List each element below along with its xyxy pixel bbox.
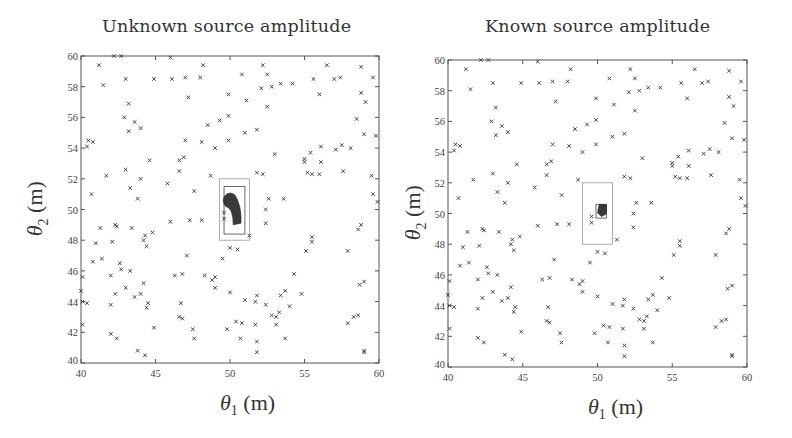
sensor-marker-x bbox=[346, 249, 350, 253]
sensor-marker-x bbox=[254, 323, 258, 327]
sensor-marker-x bbox=[611, 302, 615, 306]
sensor-marker-x bbox=[145, 245, 149, 249]
sensor-marker-x bbox=[678, 239, 682, 243]
sensor-marker-x bbox=[115, 337, 119, 341]
y-axis-unit: (m) bbox=[400, 185, 425, 217]
sensor-marker-x bbox=[362, 132, 366, 136]
sensor-marker-x bbox=[642, 327, 646, 331]
sensor-marker-x bbox=[200, 140, 204, 144]
sensor-marker-x bbox=[485, 265, 489, 269]
sensor-marker-x bbox=[512, 249, 516, 253]
y-tick-label: 46 bbox=[68, 266, 79, 277]
sensor-marker-x bbox=[482, 341, 486, 345]
sensor-marker-x bbox=[374, 134, 378, 138]
y-tick-label: 52 bbox=[435, 178, 446, 189]
sensor-marker-x bbox=[255, 128, 259, 132]
x-tick-label: 55 bbox=[299, 368, 310, 379]
sensor-marker-x bbox=[91, 260, 95, 264]
sensor-marker-x bbox=[633, 77, 637, 81]
sensor-marker-x bbox=[273, 152, 277, 156]
sensor-marker-x bbox=[234, 320, 238, 324]
sensor-marker-x bbox=[638, 318, 642, 322]
y-tick-label: 54 bbox=[435, 147, 446, 158]
sensor-marker-x bbox=[512, 310, 516, 314]
sensor-marker-x bbox=[283, 337, 287, 341]
sensor-marker-x bbox=[500, 299, 504, 303]
y-axis-label: θ2 (m) bbox=[22, 174, 51, 244]
sensor-marker-x bbox=[239, 337, 243, 341]
y-tick-label: 56 bbox=[435, 116, 446, 127]
sensor-marker-x bbox=[518, 235, 522, 239]
sensor-marker-x bbox=[593, 331, 597, 335]
sensor-marker-x bbox=[594, 118, 598, 122]
sensor-marker-x bbox=[267, 197, 271, 201]
prior-box-outer bbox=[583, 183, 613, 244]
sensor-marker-x bbox=[209, 174, 213, 178]
sensor-marker-x bbox=[623, 344, 627, 348]
sensor-marker-x bbox=[533, 186, 537, 190]
sensor-marker-x bbox=[651, 341, 655, 345]
x-tick-label: 60 bbox=[742, 372, 753, 383]
sensor-marker-x bbox=[567, 222, 571, 226]
sensor-marker-x bbox=[115, 225, 119, 229]
sensor-marker-x bbox=[228, 246, 232, 250]
sensor-marker-x bbox=[700, 81, 704, 85]
sensor-marker-x bbox=[113, 292, 117, 296]
sensor-marker-x bbox=[169, 220, 173, 224]
sensor-marker-x bbox=[590, 221, 594, 225]
sensor-marker-x bbox=[632, 212, 636, 216]
sensor-marker-x bbox=[496, 190, 500, 194]
y-tick-label: 48 bbox=[435, 239, 446, 250]
axes-frame bbox=[448, 60, 747, 367]
y-tick-label: 60 bbox=[435, 55, 446, 66]
sensor-marker-x bbox=[560, 341, 564, 345]
y-axis-symbol: θ bbox=[22, 225, 47, 236]
sensor-marker-x bbox=[166, 182, 170, 186]
sensor-marker-x bbox=[623, 175, 627, 179]
sensor-marker-x bbox=[270, 85, 274, 89]
sensor-marker-x bbox=[567, 144, 571, 148]
sensor-marker-x bbox=[732, 104, 736, 108]
sensor-marker-x bbox=[467, 261, 471, 265]
sensor-marker-x bbox=[739, 196, 743, 200]
sensor-marker-x bbox=[515, 163, 519, 167]
sensor-marker-x bbox=[110, 240, 114, 244]
y-tick-label: 40 bbox=[68, 355, 79, 366]
sensor-marker-x bbox=[478, 244, 482, 248]
sensor-marker-x bbox=[136, 349, 140, 353]
sensor-marker-x bbox=[623, 298, 627, 302]
sensor-marker-x bbox=[503, 201, 507, 205]
sensor-marker-x bbox=[687, 164, 691, 168]
sensor-marker-x bbox=[452, 149, 456, 153]
sensor-marker-x bbox=[279, 82, 283, 86]
sensor-marker-x bbox=[506, 130, 510, 134]
sensor-marker-x bbox=[476, 336, 480, 340]
sensor-marker-x bbox=[133, 295, 137, 299]
sensor-marker-x bbox=[685, 176, 689, 180]
sensor-marker-x bbox=[615, 238, 619, 242]
sensor-marker-x bbox=[566, 80, 570, 84]
sensor-marker-x bbox=[371, 192, 375, 196]
sensor-marker-x bbox=[143, 234, 147, 238]
sensor-marker-x bbox=[714, 253, 718, 257]
sensor-marker-x bbox=[685, 97, 689, 101]
x-axis-label: θ1 (m) bbox=[220, 390, 275, 419]
sensor-marker-x bbox=[124, 168, 128, 172]
x-tick-label: 55 bbox=[667, 372, 678, 383]
sensor-marker-x bbox=[243, 298, 247, 302]
sensor-marker-x bbox=[300, 292, 304, 296]
sensor-marker-x bbox=[130, 226, 134, 230]
sensor-marker-x bbox=[656, 308, 660, 312]
sensor-marker-x bbox=[221, 257, 225, 261]
sensor-marker-x bbox=[333, 77, 337, 81]
sensor-marker-x bbox=[359, 91, 363, 95]
scatter-plot-area: 40455055604042444648505254565860 bbox=[396, 0, 792, 438]
sensor-marker-x bbox=[608, 325, 612, 329]
sensor-marker-x bbox=[633, 109, 637, 113]
sensor-marker-x bbox=[670, 164, 674, 168]
sensor-marker-x bbox=[509, 285, 513, 289]
y-tick-label: 42 bbox=[68, 327, 79, 338]
sensor-marker-x bbox=[170, 77, 174, 81]
sensor-marker-x bbox=[739, 80, 743, 84]
x-tick-label: 40 bbox=[76, 368, 87, 379]
